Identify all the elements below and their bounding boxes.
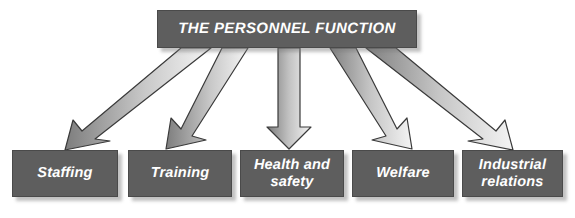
leaf-node-training-label: Training bbox=[147, 165, 214, 181]
leaf-node-industrial-relations-label: Industrial relations bbox=[475, 157, 550, 189]
leaf-node-health-and-safety: Health and safety bbox=[240, 150, 344, 197]
title-node-label: THE PERSONNEL FUNCTION bbox=[174, 21, 400, 38]
leaf-node-industrial-relations-line-2: relations bbox=[481, 174, 543, 190]
leaf-node-health-and-safety-line-1: Health and bbox=[254, 157, 330, 173]
arrow-to-health-and-safety bbox=[267, 48, 311, 149]
leaf-node-industrial-relations: Industrial relations bbox=[462, 150, 563, 197]
leaf-node-health-and-safety-line-2: safety bbox=[270, 174, 313, 190]
title-node-personnel-function: THE PERSONNEL FUNCTION bbox=[157, 10, 417, 48]
leaf-node-training: Training bbox=[128, 150, 232, 197]
leaf-node-staffing: Staffing bbox=[12, 150, 118, 197]
leaf-node-industrial-relations-line-1: Industrial bbox=[479, 157, 546, 173]
leaf-node-welfare-label: Welfare bbox=[372, 165, 434, 181]
leaf-node-staffing-label: Staffing bbox=[33, 165, 96, 181]
leaf-node-welfare: Welfare bbox=[352, 150, 454, 197]
personnel-function-diagram: THE PERSONNEL FUNCTION Staffing Training… bbox=[0, 0, 575, 218]
leaf-node-health-and-safety-label: Health and safety bbox=[250, 157, 334, 189]
